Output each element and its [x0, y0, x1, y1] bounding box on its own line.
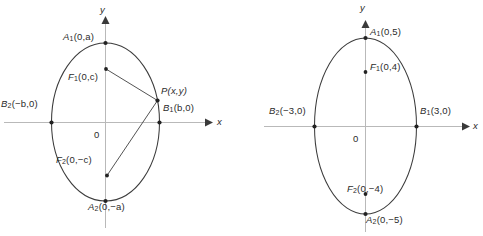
left-x-axis-label: x [217, 117, 222, 127]
left-label-B2: B2(−b,0) [1, 99, 38, 109]
right-point-A1 [363, 36, 367, 40]
left-origin-label: 0 [94, 130, 99, 140]
left-point-A1 [103, 41, 107, 45]
right-label-A2: A2(0,−5) [366, 215, 403, 225]
left-label-A1-coords: (0,a) [74, 31, 95, 42]
left-segment-F1-P [106, 69, 158, 101]
right-label-F2-coords: (0,−4) [357, 183, 383, 194]
left-label-A1: A1(0,a) [63, 32, 94, 42]
right-x-axis-arrowhead [462, 123, 470, 131]
left-label-B1-coords: (b,0) [174, 102, 195, 113]
left-x-axis-arrowhead [205, 119, 213, 127]
left-point-P [155, 98, 159, 102]
right-label-F1-coords: (0,4) [380, 61, 401, 72]
right-label-F1: F1(0,4) [370, 62, 401, 72]
left-label-F2: F2(0,−c) [56, 155, 92, 165]
left-label-F1-coords: (0,c) [78, 71, 98, 82]
left-segment-F2-P [107, 101, 158, 176]
right-label-B2: B2(−3,0) [269, 106, 306, 116]
right-y-axis-arrowhead [362, 20, 370, 28]
figure-root: y x 0 A1(0,a) A2(0,−a) B2(−b,0) B1(b,0) … [0, 0, 483, 236]
left-y-axis-label: y [100, 5, 105, 15]
right-label-B1: B1(3,0) [420, 106, 451, 116]
right-point-B1 [414, 124, 418, 128]
right-x-axis-label: x [473, 121, 478, 131]
right-label-F2: F2(0,−4) [347, 184, 383, 194]
right-panel-group [264, 20, 470, 232]
left-point-B1 [157, 120, 161, 124]
left-label-B1: B1(b,0) [163, 103, 194, 113]
right-label-A1-coords: (0,5) [381, 26, 402, 37]
right-point-B2 [312, 124, 316, 128]
left-label-F2-coords: (0,−c) [66, 154, 92, 165]
right-label-B2-coords: (−3,0) [280, 105, 306, 116]
left-label-P-coords: (x,y) [168, 85, 187, 96]
left-label-B2-coords: (−b,0) [12, 98, 38, 109]
right-label-A1: A1(0,5) [370, 27, 401, 37]
right-point-F1 [364, 70, 368, 74]
left-label-P: P(x,y) [161, 86, 187, 96]
left-label-A2: A2(0,−a) [88, 202, 125, 212]
left-panel-group [4, 16, 213, 228]
right-label-A2-coords: (0,−5) [377, 214, 403, 225]
left-label-A2-coords: (0,−a) [99, 201, 125, 212]
right-origin-label: 0 [353, 134, 358, 144]
left-y-axis-arrowhead [102, 16, 110, 24]
right-label-B1-coords: (3,0) [431, 105, 452, 116]
left-point-F2 [105, 174, 109, 178]
left-point-B2 [49, 120, 53, 124]
left-label-F1: F1(0,c) [68, 72, 98, 82]
left-point-F1 [104, 67, 108, 71]
right-y-axis-label: y [360, 3, 365, 13]
